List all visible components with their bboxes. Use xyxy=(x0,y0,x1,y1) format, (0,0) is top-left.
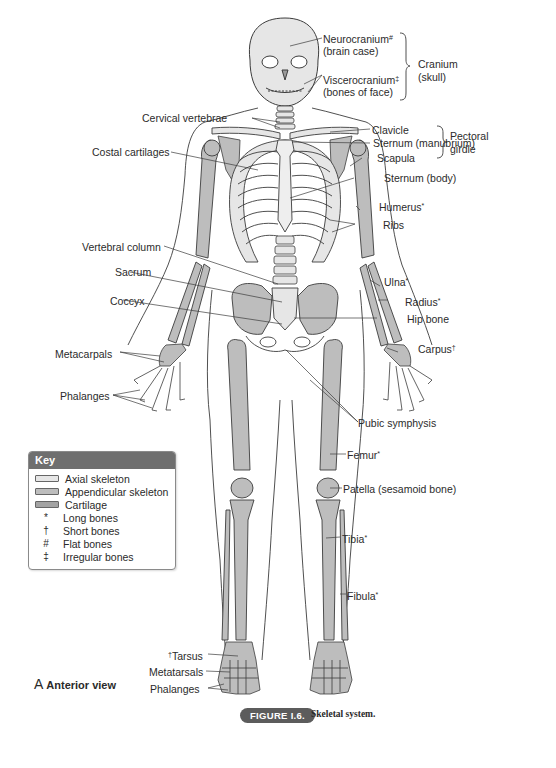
group-label-cranium: Cranium(skull) xyxy=(418,58,458,83)
group-label-pectoral-girdle: Pectoralgirdle xyxy=(450,130,489,155)
label-text: Fibula xyxy=(347,590,376,602)
key-legend: Key Axial skeleton Appendicular skeleton… xyxy=(28,451,176,570)
appendicular-swatch xyxy=(35,488,59,495)
label-ribs: Ribs xyxy=(383,219,404,231)
long-bone-mark: * xyxy=(438,297,441,304)
label-text: Radius xyxy=(405,296,438,308)
feet xyxy=(218,642,352,694)
key-item-appendicular: Appendicular skeleton xyxy=(29,485,175,498)
asterisk-symbol-icon: * xyxy=(35,512,57,523)
label-metacarpals: Metacarpals xyxy=(55,348,112,360)
key-item-axial: Axial skeleton xyxy=(29,472,175,485)
label-text: Femur xyxy=(347,449,377,461)
label-text: Cranium xyxy=(418,58,458,71)
sternum xyxy=(276,140,294,232)
short-bone-mark: † xyxy=(452,344,456,351)
label-fibula: Fibula* xyxy=(347,589,378,602)
key-label: Irregular bones xyxy=(63,551,134,563)
label-scapula: Scapula xyxy=(377,152,415,164)
label-neurocranium: Neurocranium# xyxy=(323,32,393,45)
label-costal-cartilages: Costal cartilages xyxy=(92,146,170,158)
dagger-symbol-icon: † xyxy=(35,525,57,536)
long-bone-mark: * xyxy=(364,534,367,541)
long-bone-mark: * xyxy=(422,202,425,209)
long-bone-mark: * xyxy=(376,591,379,598)
label-ulna: Ulna* xyxy=(384,275,408,288)
long-bone-mark: * xyxy=(377,450,380,457)
label-patella: Patella (sesamoid bone) xyxy=(343,483,456,495)
label-text: Viscerocranium xyxy=(323,74,395,86)
label-pubic-symphysis: Pubic symphysis xyxy=(358,417,436,429)
cartilage-swatch xyxy=(35,501,59,508)
key-label: Axial skeleton xyxy=(65,473,130,485)
double-dagger-symbol-icon: ‡ xyxy=(35,551,57,562)
hands xyxy=(134,344,432,411)
label-text: Neurocranium xyxy=(323,33,389,45)
figure-caption: Skeletal system. xyxy=(311,709,375,719)
label-text: Humerus xyxy=(379,201,422,213)
view-letter: A xyxy=(34,676,43,692)
key-title: Key xyxy=(29,452,175,469)
label-bones-of-face: (bones of face) xyxy=(323,86,393,98)
label-text: girdle xyxy=(450,143,489,156)
lumbar-vertebrae xyxy=(273,236,297,284)
label-brain-case: (brain case) xyxy=(323,45,378,57)
key-label: Short bones xyxy=(63,525,120,537)
label-femur: Femur* xyxy=(347,448,380,461)
label-vertebral-column: Vertebral column xyxy=(82,241,161,253)
skull xyxy=(249,18,318,106)
label-text: (skull) xyxy=(418,71,458,84)
label-metatarsals: Metatarsals xyxy=(149,666,203,678)
skeleton-illustration xyxy=(0,0,556,768)
label-hip-bone: Hip bone xyxy=(407,313,449,325)
key-label: Cartilage xyxy=(65,499,107,511)
label-radius: Radius* xyxy=(405,295,440,308)
key-label: Long bones xyxy=(63,512,118,524)
pelvis xyxy=(232,283,338,351)
label-viscerocranium: Viscerocranium‡ xyxy=(323,73,399,86)
label-phalanges-foot: Phalanges xyxy=(150,683,200,695)
cervical-vertebrae xyxy=(275,106,295,129)
hash-symbol-icon: # xyxy=(35,538,57,549)
label-tarsus: †Tarsus xyxy=(168,649,203,662)
legs xyxy=(222,339,348,640)
key-item-irregular-bones: ‡ Irregular bones xyxy=(29,550,175,563)
label-humerus: Humerus* xyxy=(379,200,424,213)
view-name: Anterior view xyxy=(46,679,116,691)
label-text: Pectoral xyxy=(450,130,489,143)
axial-swatch xyxy=(35,475,59,482)
label-phalanges-hand: Phalanges xyxy=(60,390,110,402)
key-item-flat-bones: # Flat bones xyxy=(29,537,175,550)
label-sacrum: Sacrum xyxy=(115,266,151,278)
figure-number-badge: FIGURE I.6. xyxy=(240,708,315,723)
label-text: Ulna xyxy=(384,276,406,288)
key-label: Appendicular skeleton xyxy=(65,486,168,498)
irregular-bone-mark: ‡ xyxy=(395,75,399,82)
label-text: Tarsus xyxy=(172,650,203,662)
long-bone-mark: * xyxy=(406,277,409,284)
label-text: Carpus xyxy=(418,343,452,355)
key-item-short-bones: † Short bones xyxy=(29,524,175,537)
key-item-long-bones: * Long bones xyxy=(29,511,175,524)
skeletal-system-figure: Neurocranium# (brain case) Viscerocraniu… xyxy=(0,0,556,768)
label-carpus: Carpus† xyxy=(418,342,456,355)
flat-bone-mark: # xyxy=(389,34,393,41)
label-sternum-body: Sternum (body) xyxy=(384,172,456,184)
key-label: Flat bones xyxy=(63,538,112,550)
key-item-cartilage: Cartilage xyxy=(29,498,175,511)
label-tibia: Tibia* xyxy=(342,532,367,545)
label-cervical-vertebrae: Cervical vertebrae xyxy=(142,112,227,124)
label-clavicle: Clavicle xyxy=(372,124,409,136)
label-text: Tibia xyxy=(342,533,364,545)
view-label: AAnterior view xyxy=(34,676,116,692)
label-coccyx: Coccyx xyxy=(110,295,144,307)
